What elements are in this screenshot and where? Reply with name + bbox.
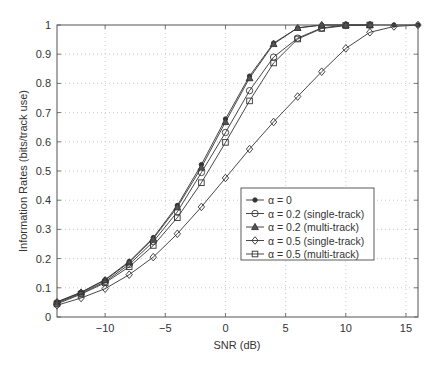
y-tick-label: 0.3 — [36, 223, 51, 235]
x-axis-label: SNR (dB) — [213, 339, 260, 351]
x-tick-labels: −10−5051015 — [96, 322, 412, 334]
series-square — [54, 22, 372, 306]
legend-label: α = 0.2 (single-track) — [268, 208, 364, 220]
series-circle — [54, 22, 373, 306]
series-diamond — [54, 21, 421, 309]
x-tick-label: 10 — [340, 322, 352, 334]
x-tick-label: −10 — [96, 322, 115, 334]
legend-label: α = 0.5 (multi-track) — [268, 248, 359, 260]
x-tick-label: −5 — [159, 322, 172, 334]
legend-label: α = 0 — [268, 194, 292, 206]
series-line — [57, 25, 418, 305]
y-tick-label: 0.1 — [36, 282, 51, 294]
y-tick-label: 0.6 — [36, 136, 51, 148]
y-tick-label: 0.5 — [36, 165, 51, 177]
star-marker-icon — [253, 198, 257, 202]
y-tick-label: 0.2 — [36, 253, 51, 265]
series-line — [57, 25, 370, 302]
y-tick-label: 0.4 — [36, 194, 51, 206]
y-tick-label: 0.7 — [36, 107, 51, 119]
chart: −10−5051015 00.10.20.30.40.50.60.70.80.9… — [0, 0, 442, 367]
x-tick-label: 15 — [400, 322, 412, 334]
y-tick-labels: 00.10.20.30.40.50.60.70.80.91 — [36, 19, 51, 323]
y-tick-label: 0.9 — [36, 48, 51, 60]
x-tick-label: 5 — [283, 322, 289, 334]
grid-lines — [57, 25, 418, 317]
y-tick-label: 0.8 — [36, 77, 51, 89]
y-tick-label: 1 — [45, 19, 51, 31]
legend: α = 0α = 0.2 (single-track)α = 0.2 (mult… — [241, 188, 374, 260]
legend-label: α = 0.5 (single-track) — [268, 235, 364, 247]
plot-series — [54, 21, 422, 309]
x-tick-label: 0 — [222, 322, 228, 334]
y-axis-label: Information Rates (bits/track use) — [17, 90, 29, 252]
y-tick-label: 0 — [45, 311, 51, 323]
series-line — [57, 25, 370, 303]
legend-label: α = 0.2 (multi-track) — [268, 221, 359, 233]
series-line — [57, 25, 370, 304]
